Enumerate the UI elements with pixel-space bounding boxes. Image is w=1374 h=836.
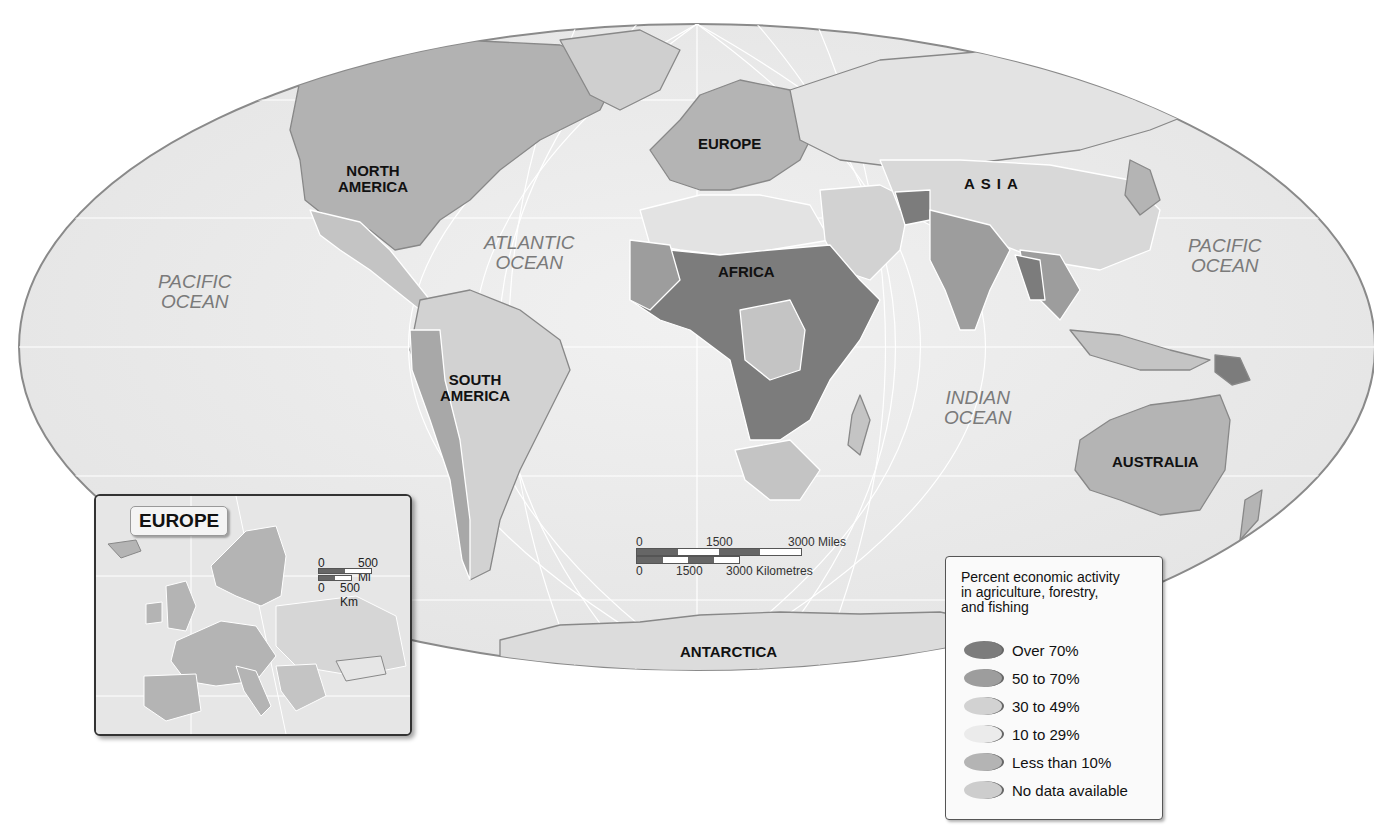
map-legend: Percent economic activity in agriculture… bbox=[945, 556, 1163, 820]
legend-swatch-icon bbox=[964, 725, 1004, 743]
scale-bar: 0 1500 3000 Miles 0 1500 3000 Kilometres bbox=[636, 535, 856, 577]
scale-miles-tick-0: 0 bbox=[636, 535, 643, 549]
europe-inset-map: EUROPE 0 500 Mi 0 500 Km bbox=[94, 494, 412, 736]
inset-scale-bar: 0 500 Mi 0 500 Km bbox=[318, 556, 378, 593]
legend-label: No data available bbox=[1012, 782, 1128, 799]
legend-swatch-icon bbox=[964, 781, 1004, 799]
label-indian-ocean: INDIAN OCEAN bbox=[944, 388, 1012, 428]
inset-ireland bbox=[146, 602, 162, 624]
legend-label: 50 to 70% bbox=[1012, 670, 1080, 687]
label-europe: EUROPE bbox=[698, 136, 761, 152]
legend-label: 30 to 49% bbox=[1012, 698, 1080, 715]
scale-km-tick-0: 0 bbox=[636, 564, 643, 578]
legend-label: Over 70% bbox=[1012, 642, 1079, 659]
label-antarctica: ANTARCTICA bbox=[680, 644, 777, 660]
label-north-america: NORTH AMERICA bbox=[338, 163, 408, 195]
scale-km-tick-1: 1500 bbox=[676, 564, 703, 578]
inset-title: EUROPE bbox=[130, 506, 228, 536]
label-atlantic-ocean: ATLANTIC OCEAN bbox=[484, 233, 574, 273]
legend-item-less-than-10: Less than 10% bbox=[964, 752, 1111, 772]
label-pacific-ocean-west: PACIFIC OCEAN bbox=[158, 272, 232, 312]
legend-item-over-70: Over 70% bbox=[964, 640, 1079, 660]
scale-miles-tick-1: 1500 bbox=[706, 535, 733, 549]
legend-label: Less than 10% bbox=[1012, 754, 1111, 771]
legend-swatch-icon bbox=[964, 669, 1004, 687]
scale-miles-tick-2: 3000 Miles bbox=[788, 535, 846, 549]
legend-swatch-icon bbox=[964, 753, 1004, 771]
inset-scale-km-tick-1: 500 Km bbox=[340, 581, 378, 609]
legend-swatch-icon bbox=[964, 697, 1004, 715]
inset-scale-bar-miles bbox=[318, 568, 372, 574]
scale-bar-miles bbox=[636, 548, 802, 556]
legend-label: 10 to 29% bbox=[1012, 726, 1080, 743]
legend-item-10-to-29: 10 to 29% bbox=[964, 724, 1080, 744]
legend-swatch-icon bbox=[964, 641, 1004, 659]
legend-item-30-to-49: 30 to 49% bbox=[964, 696, 1080, 716]
label-asia: ASIA bbox=[964, 176, 1024, 192]
legend-item-50-to-70: 50 to 70% bbox=[964, 668, 1080, 688]
legend-title: Percent economic activity in agriculture… bbox=[961, 570, 1161, 615]
label-africa: AFRICA bbox=[718, 264, 775, 280]
scale-bar-kilometres bbox=[636, 556, 740, 564]
legend-item-no-data: No data available bbox=[964, 780, 1128, 800]
label-pacific-ocean-east: PACIFIC OCEAN bbox=[1188, 236, 1262, 276]
inset-scale-km-tick-0: 0 bbox=[318, 581, 325, 595]
scale-km-tick-2: 3000 Kilometres bbox=[726, 564, 813, 578]
label-australia: AUSTRALIA bbox=[1112, 454, 1199, 470]
label-south-america: SOUTH AMERICA bbox=[440, 372, 510, 404]
